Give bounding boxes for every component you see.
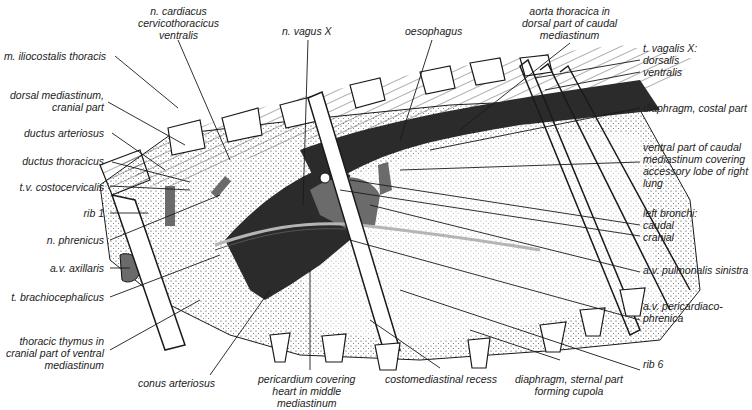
- label-ductus-arteriosus: ductus arteriosus: [24, 127, 104, 139]
- label-ventral-caudal-mediastinum: ventral part of caudal mediastinum cover…: [643, 141, 748, 189]
- label-av-pulmonalis: a.v. pulmonalis sinistra: [643, 264, 748, 276]
- label-rib-6: rib 6: [643, 358, 663, 370]
- anatomy-diagram: n. cardiacus cervicothoracicus ventralis…: [0, 0, 752, 410]
- thorax-illustration: [0, 0, 752, 410]
- label-diaphragm-costal: diaphragm, costal part: [643, 102, 747, 114]
- label-av-axillaris: a.v. axillaris: [50, 262, 104, 274]
- label-t-brachiocephalicus: t. brachiocephalicus: [11, 291, 104, 303]
- label-dorsal-mediastinum: dorsal mediastinum, cranial part: [10, 89, 104, 113]
- label-costomediastinal-recess: costomediastinal recess: [385, 373, 497, 385]
- label-thoracic-thymus: thoracic thymus in cranial part of ventr…: [6, 335, 104, 371]
- label-tv-costocervicalis: t.v. costocervicalis: [20, 181, 104, 193]
- label-m-iliocostalis: m. iliocostalis thoracis: [4, 50, 106, 62]
- label-av-pericardiaco: a.v. pericardiaco- phrenica: [643, 300, 723, 324]
- label-rib-1: rib 1: [84, 207, 104, 219]
- label-left-bronchi: left bronchi: caudal cranial: [643, 207, 697, 243]
- label-aorta-thoracica: aorta thoracica in dorsal part of caudal…: [522, 5, 617, 41]
- label-diaphragm-sternal: diaphragm, sternal part forming cupola: [515, 373, 623, 397]
- label-n-phrenicus: n. phrenicus: [47, 234, 104, 246]
- label-n-cardiacus: n. cardiacus cervicothoracicus ventralis: [138, 5, 219, 41]
- label-pericardium: pericardium covering heart in middle med…: [258, 373, 355, 409]
- label-n-vagus: n. vagus X: [282, 25, 332, 37]
- label-ductus-thoracicus: ductus thoracicus: [22, 155, 104, 167]
- label-oesophagus: oesophagus: [405, 25, 462, 37]
- label-t-vagalis: t. vagalis X: dorsalis ventralis: [643, 42, 697, 78]
- label-conus-arteriosus: conus arteriosus: [138, 377, 215, 389]
